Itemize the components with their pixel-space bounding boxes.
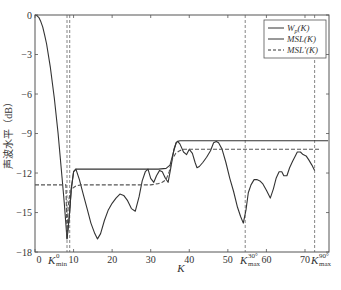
y-tick-label: −3 (21, 49, 32, 60)
series-line (35, 149, 320, 233)
svg-text:0: 0 (56, 252, 60, 260)
k30-label: K 30° max (239, 252, 261, 268)
k90-label: K 90° max (310, 252, 332, 268)
legend-label: MSL(K) (286, 34, 316, 44)
svg-text:max: max (248, 260, 261, 268)
svg-text:min: min (56, 260, 67, 268)
x-tick-label: 10 (69, 254, 79, 265)
x-tick-label: 40 (184, 254, 194, 265)
x-tick-label: 20 (107, 254, 117, 265)
x-tick-label: 60 (261, 254, 271, 265)
y-tick-label: 0 (27, 10, 32, 21)
x-tick-label: 0 (37, 254, 42, 265)
svg-text:30°: 30° (248, 252, 258, 260)
y-tick-label: −15 (16, 207, 32, 218)
y-tick-label: −6 (21, 89, 32, 100)
svg-text:K: K (310, 254, 319, 266)
legend-label: Wp(K) (287, 23, 310, 34)
x-tick-label: 70 (300, 254, 310, 265)
x-axis-label: K (176, 262, 185, 274)
y-tick-label: −9 (21, 128, 32, 139)
y-tick-label: −18 (16, 247, 32, 258)
line-chart: 0−3−6−9−12−15−18 010203040506070 K 声波水平（… (0, 0, 341, 290)
y-axis-label: 声波水平（dB） (2, 97, 14, 169)
svg-text:K: K (239, 254, 248, 266)
y-tick-label: −12 (16, 168, 32, 179)
svg-text:90°: 90° (319, 252, 329, 260)
svg-text:max: max (319, 260, 332, 268)
svg-text:K: K (47, 254, 56, 266)
x-tick-label: 30 (146, 254, 156, 265)
legend: Wp(K)MSL(K)MSL'(K) (264, 20, 326, 58)
legend-label: MSL'(K) (286, 45, 318, 55)
kmin-label: K 0 min (47, 252, 67, 268)
x-tick-label: 50 (223, 254, 233, 265)
series-line (67, 141, 328, 239)
